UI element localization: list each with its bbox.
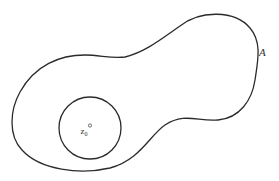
point-z0-label: z0 <box>81 126 88 137</box>
point-z0-label-sub: 0 <box>85 131 88 137</box>
diagram-canvas: z0 A <box>0 0 279 181</box>
disk-boundary <box>59 97 121 159</box>
point-z0-marker <box>88 124 91 127</box>
region-a-boundary <box>12 14 258 171</box>
region-a-label: A <box>258 46 266 58</box>
